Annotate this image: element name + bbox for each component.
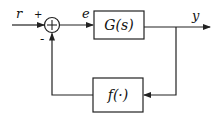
plus-sign: + bbox=[34, 9, 42, 20]
error-label: e bbox=[82, 6, 90, 21]
summing-junction bbox=[45, 18, 60, 33]
plant-label: G(s) bbox=[104, 17, 133, 33]
reference-label: r bbox=[16, 6, 23, 21]
block-diagram: r + - e G(s) y f(·) bbox=[0, 0, 221, 118]
plant-block: G(s) bbox=[94, 11, 144, 39]
minus-sign: - bbox=[40, 32, 44, 46]
output-label: y bbox=[191, 8, 200, 23]
feedback-label: f(·) bbox=[107, 87, 129, 103]
feedback-block: f(·) bbox=[93, 78, 143, 112]
feedback-down-line bbox=[144, 27, 176, 95]
feedback-return-line bbox=[52, 34, 93, 96]
